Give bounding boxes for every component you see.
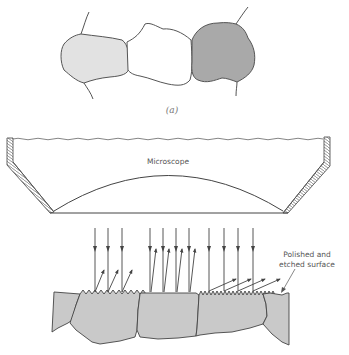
reflected-ray [151, 249, 156, 292]
reflected-ray [238, 279, 265, 291]
specimen-grain-rough-1 [70, 290, 146, 344]
down-arrowheads [93, 246, 255, 252]
grain-boundary-tail [81, 12, 89, 34]
grain-boundary-tail [84, 83, 93, 99]
reflected-ray [253, 279, 280, 291]
reflected-ray [122, 270, 132, 292]
grain-boundary-microscope-diagram: (a) Microscope [0, 0, 349, 355]
right-wall [283, 137, 330, 213]
part-a-grains [61, 7, 255, 99]
reflected-ray [209, 279, 236, 291]
surface-label-line1: Polished and [283, 250, 331, 259]
surface-leader-line [283, 269, 295, 290]
white-grain [127, 23, 192, 85]
part-a-caption: (a) [166, 105, 179, 115]
left-wall [7, 138, 54, 213]
dark-grain [192, 23, 255, 82]
microscope-objective [7, 137, 330, 213]
grain-boundary-tail [236, 82, 237, 96]
specimen-grain-right-edge [263, 293, 289, 345]
reflected-ray [164, 249, 169, 292]
reflected-ray [108, 270, 118, 292]
specimen-grain-smooth [137, 293, 199, 339]
reflected-rays [95, 249, 280, 292]
reflected-ray [224, 279, 251, 291]
grain-boundary-tail [236, 7, 248, 24]
reflected-ray [95, 270, 104, 292]
surface-leader-arrowhead [281, 287, 286, 293]
objective-lens-arc [54, 176, 283, 212]
inner-wall-right [283, 162, 324, 213]
specimen [52, 290, 289, 345]
surface-label-line2: etched surface [279, 260, 335, 269]
microscope-label: Microscope [147, 157, 190, 166]
reflected-ray [190, 249, 195, 292]
reflected-ray [177, 249, 182, 292]
microscope-top-edge [13, 138, 323, 140]
light-grain [61, 34, 129, 83]
inner-wall-left [13, 162, 54, 212]
specimen-grain-rough-2 [196, 291, 275, 336]
